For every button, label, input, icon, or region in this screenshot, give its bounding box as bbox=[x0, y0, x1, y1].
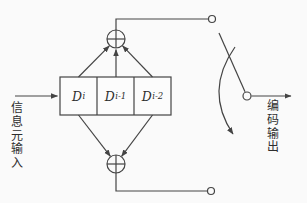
diagram-canvas bbox=[0, 0, 307, 203]
register-box bbox=[60, 77, 171, 115]
switch-pivot bbox=[243, 92, 251, 100]
wire-bottom-adder-to-contact bbox=[116, 173, 208, 191]
wire-top-adder-to-contact bbox=[116, 19, 209, 30]
switch-arm bbox=[219, 33, 245, 92]
switch-contact-bottom bbox=[208, 188, 215, 195]
switch-swing-arc bbox=[219, 47, 235, 134]
xor-adder-bottom-icon bbox=[107, 155, 125, 173]
xor-adder-top-icon bbox=[107, 30, 125, 48]
feed-di2-to-top-adder bbox=[123, 46, 153, 77]
input-label: 信息元输入 bbox=[10, 102, 23, 171]
output-label: 编码输出 bbox=[266, 100, 279, 155]
switch-contact-top bbox=[209, 16, 216, 23]
feed-di-to-bottom-adder bbox=[79, 115, 111, 156]
feed-di-to-top-adder bbox=[79, 46, 110, 77]
encoder-diagram: Di Di-1 Di-2 信息元输入 编码输出 bbox=[0, 0, 307, 203]
feed-di2-to-bottom-adder bbox=[122, 115, 153, 156]
